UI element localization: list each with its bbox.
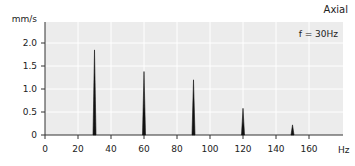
x-axis-label: Hz [338, 145, 350, 155]
x-tick-label: 120 [234, 144, 251, 154]
y-tick-label: 1.0 [23, 84, 38, 94]
spectrum-chart: 02040608010012014016000.51.01.52.0 Axial… [0, 0, 355, 166]
x-tick-label: 0 [42, 144, 48, 154]
x-tick-label: 160 [300, 144, 317, 154]
x-tick-label: 40 [105, 144, 117, 154]
x-tick-label: 140 [267, 144, 284, 154]
x-tick-label: 80 [171, 144, 183, 154]
x-tick-label: 20 [72, 144, 84, 154]
y-tick-label: 1.5 [23, 61, 37, 71]
chart-title: Axial [324, 4, 348, 15]
y-tick-label: 0.5 [23, 107, 37, 117]
x-tick-label: 100 [201, 144, 218, 154]
chart-container: 02040608010012014016000.51.01.52.0 Axial… [0, 0, 355, 166]
y-tick-label: 2.0 [23, 38, 38, 48]
x-tick-label: 60 [138, 144, 150, 154]
y-tick-label: 0 [31, 130, 37, 140]
frequency-annotation: f = 30Hz [299, 29, 339, 39]
y-axis-label: mm/s [12, 14, 38, 24]
